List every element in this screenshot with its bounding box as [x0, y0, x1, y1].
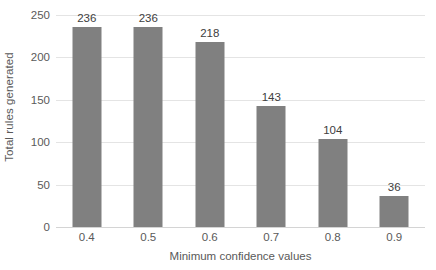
x-axis-tick-label: 0.8	[325, 231, 341, 243]
y-axis-tick-label: 100	[4, 136, 50, 148]
x-axis-tick-label: 0.7	[263, 231, 279, 243]
x-axis-title: Minimum confidence values	[56, 250, 425, 262]
x-axis-tick-label: 0.4	[79, 231, 95, 243]
bar-chart: Total rules generated 050100150200250 23…	[0, 0, 436, 270]
y-axis-tick-labels: 050100150200250	[0, 15, 50, 227]
x-axis-tick-label: 0.5	[140, 231, 156, 243]
x-axis-tick-label: 0.9	[386, 231, 402, 243]
x-axis-tick-labels: 0.40.50.60.70.80.9	[56, 0, 425, 270]
y-axis-tick-label: 0	[4, 221, 50, 233]
y-axis-tick-label: 50	[4, 179, 50, 191]
y-axis-tick-label: 150	[4, 94, 50, 106]
x-axis-tick-label: 0.6	[202, 231, 218, 243]
y-axis-tick-label: 200	[4, 51, 50, 63]
y-axis-tick-label: 250	[4, 9, 50, 21]
